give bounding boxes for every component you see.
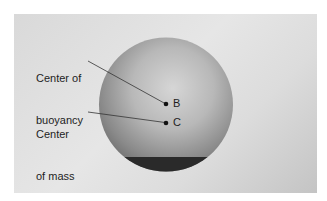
buoyancy-label-line1: Center of [36,71,83,85]
ballast-band [95,157,240,182]
point-b-label: B [173,97,180,109]
mass-label-line2: of mass [36,169,75,183]
mass-label-line1: Center [36,127,75,141]
mass-point-dot [164,121,169,126]
buoyancy-point-dot [164,102,169,107]
point-c-label: C [173,116,181,128]
mass-label: Center of mass [36,99,75,197]
